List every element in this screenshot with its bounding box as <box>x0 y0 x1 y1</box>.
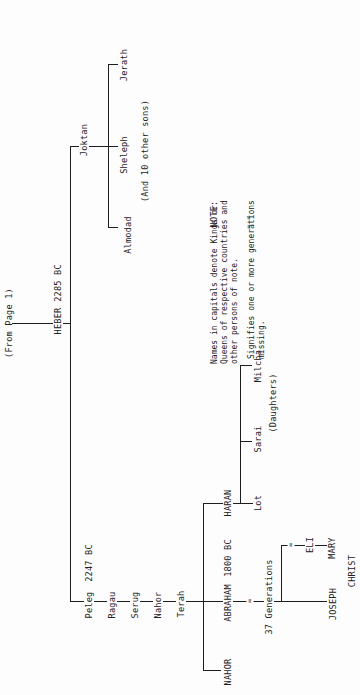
sheleph-connector <box>108 146 118 147</box>
haran-children-line <box>240 365 241 504</box>
other-sons-note: (And 10 other sons) <box>140 100 150 202</box>
nahor-name: Nahor <box>153 591 163 620</box>
terah-name: Terah <box>176 590 186 619</box>
joseph-connector <box>281 601 327 602</box>
serug-name: Serug <box>130 591 140 620</box>
abraham-date: 1800 BC <box>223 539 233 577</box>
terah-children-line <box>203 503 204 671</box>
missing-text: Signifies one or more generations missin… <box>247 200 267 359</box>
joktan-connector <box>70 146 109 147</box>
haran-connector <box>203 503 241 504</box>
missing-generations-marker: = <box>247 599 254 603</box>
heber-date: 2285 BC <box>53 264 63 302</box>
jerath-connector <box>108 64 118 65</box>
almodad-connector <box>108 227 118 228</box>
joseph-name: JOSEPH <box>328 588 338 620</box>
peleg-date: 2247 BC <box>84 544 94 582</box>
nahor-connector <box>203 670 221 671</box>
eli-missing-marker: = <box>288 543 295 547</box>
generations-gap-label: 37 Generations <box>264 558 274 635</box>
sheleph-name: Sheleph <box>119 136 129 174</box>
haran-name: HARAN <box>223 489 233 518</box>
abraham-name: ABRAHAM <box>223 583 233 623</box>
lot-connector <box>240 503 253 504</box>
joseph-eli-line <box>281 545 282 602</box>
christ-name: CHRIST <box>347 555 357 587</box>
almodad-name: Almodad <box>123 216 133 254</box>
genealogy-page: (From Page 1) HEBER 2285 BC Joktan Jerat… <box>0 0 360 695</box>
sarai-connector <box>240 441 252 442</box>
eli-name: ELI <box>305 536 315 554</box>
note-text: Names in capitals denote Kings or Queens… <box>210 200 240 364</box>
ragau-name: Ragau <box>107 591 117 620</box>
jerath-name: Jerath <box>119 49 129 81</box>
joktan-name: Joktan <box>79 123 89 157</box>
lot-name: Lot <box>253 495 263 511</box>
milcha-connector <box>240 365 252 366</box>
sarai-name: Sarai <box>253 426 263 453</box>
daughters-label: (Daughters) <box>268 373 278 432</box>
nahor-son-name: NAHOR <box>223 659 233 686</box>
heber-children-line <box>70 146 71 602</box>
mary-name: MARY <box>327 537 337 559</box>
heber-name: HEBER <box>53 307 63 336</box>
peleg-name: Peleg <box>84 591 94 620</box>
